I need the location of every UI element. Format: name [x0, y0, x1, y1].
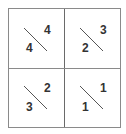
cell-lower-value: 2 [82, 42, 89, 54]
cell-upper-value: 4 [44, 24, 51, 36]
cell-upper-value: 2 [44, 82, 51, 94]
diagonal-line [65, 69, 120, 128]
cell-top-left: 4 4 [9, 9, 64, 68]
diagonal-line [9, 69, 64, 128]
diagonal-line [9, 9, 64, 68]
cell-bottom-right: 1 1 [65, 69, 120, 128]
cell-upper-value: 3 [100, 24, 107, 36]
diagonal-line [65, 9, 120, 68]
cell-upper-value: 1 [100, 82, 107, 94]
cell-lower-value: 1 [82, 101, 89, 113]
cell-lower-value: 3 [26, 101, 33, 113]
split-cell-grid: 4 4 3 2 2 3 1 1 [8, 8, 121, 128]
cell-lower-value: 4 [26, 42, 33, 54]
cell-bottom-left: 2 3 [9, 69, 64, 128]
cell-top-right: 3 2 [65, 9, 120, 68]
